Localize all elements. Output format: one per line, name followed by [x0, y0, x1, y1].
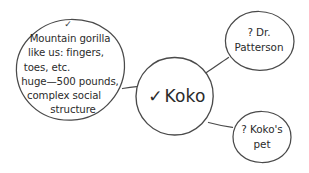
connector-koko-to-pet [209, 123, 233, 128]
gorilla-line-1: Mountain gorilla [30, 33, 111, 44]
connector-gorilla-to-koko [123, 87, 137, 89]
node-dr-patterson[interactable]: ? Dr. Patterson [225, 11, 294, 70]
gorilla-line-3: toes, etc. [24, 62, 70, 73]
mindmap-canvas: ✓ Mountain gorilla like us: fingers, toe… [0, 0, 309, 173]
koko-label: Koko [164, 86, 205, 106]
gorilla-line-5: complex social [27, 90, 101, 101]
node-kokos-pet-outline [233, 111, 291, 162]
gorilla-line-6: structure [50, 104, 95, 115]
dr-patterson-line-1: ? Dr. [247, 26, 270, 38]
kokos-pet-line-2: pet [254, 138, 271, 150]
koko-check-icon: ✓ [148, 86, 162, 106]
gorilla-line-4: huge—500 pounds, [21, 76, 119, 87]
mindmap-diagram: ✓ Mountain gorilla like us: fingers, toe… [0, 0, 309, 173]
gorilla-line-2: like us: fingers, [28, 47, 104, 58]
connector-koko-to-patterson [207, 58, 229, 73]
node-koko-center[interactable]: ✓ Koko [136, 57, 213, 135]
node-kokos-pet[interactable]: ? Koko's pet [233, 111, 291, 162]
gorilla-check-icon: ✓ [64, 19, 72, 29]
node-mountain-gorilla[interactable]: ✓ Mountain gorilla like us: fingers, toe… [16, 19, 124, 121]
dr-patterson-line-2: Patterson [235, 41, 284, 53]
kokos-pet-line-1: ? Koko's [241, 123, 282, 135]
